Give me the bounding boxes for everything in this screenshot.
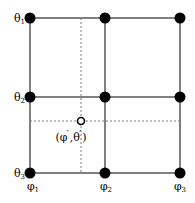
grid-node-r3-c3 [175,168,186,179]
theta-subscript: 2 [21,97,25,105]
grid-node-r2-c1 [25,92,36,103]
grid-node-r3-c1 [25,168,36,179]
phi-subscript: 2 [108,186,112,194]
grid-canvas [0,0,195,203]
paren-close: ) [82,131,86,144]
phi-label-3: φ3 [174,181,186,192]
grid-node-r3-c2 [100,168,111,179]
theta-subscript: 1 [21,18,25,26]
grid-node-r2-c3 [175,92,186,103]
theta-subscript: 3 [21,173,25,181]
phi-label-1: φ1 [27,181,39,192]
theta-label-3: θ3 [14,168,25,179]
phi-subscript: 3 [182,186,186,194]
grid-node-r2-c2 [100,92,111,103]
phi-symbol: φ [27,180,35,193]
phi-symbol: φ [174,180,182,193]
theta-symbol: θ [14,91,21,104]
theta-label-1: θ1 [14,13,25,24]
phi-subscript: 1 [35,186,39,194]
theta-label-2: θ2 [14,92,25,103]
theta-symbol: θ [14,12,21,25]
interpolation-point-label: (φ′,θ′) [56,128,87,143]
interpolation-point-circle [78,118,85,125]
phi-label-2: φ2 [100,181,112,192]
phi-prime-mark: ′ [67,128,69,139]
grid-node-r1-c1 [25,13,36,24]
theta-prime-mark: ′ [79,128,81,139]
theta-symbol: θ [14,167,21,180]
phi-symbol: φ [100,180,108,193]
grid-node-r1-c3 [175,13,186,24]
grid-node-r1-c2 [100,13,111,24]
interpolation-grid-figure: θ1θ2θ3 φ1φ2φ3 (φ′,θ′) [0,0,195,203]
interpolation-point-marker [78,118,85,125]
